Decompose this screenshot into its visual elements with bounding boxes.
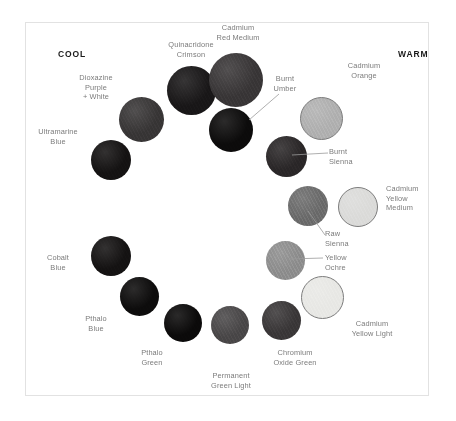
- warm-pole-label: WARM: [398, 49, 429, 59]
- swatch-caption: Ultramarine Blue: [27, 127, 89, 146]
- swatch-caption: Cadmium Orange: [331, 61, 397, 80]
- swatch-sheen: [266, 136, 307, 177]
- swatch-caption: Cadmium Yellow Light: [336, 319, 408, 338]
- swatch-sheen: [211, 306, 249, 344]
- cool-pole-label: COOL: [58, 49, 86, 59]
- diagram-panel: COOL WARM Quinacridone CrimsonCadmium Re…: [25, 22, 429, 396]
- swatch-caption: Quinacridone Crimson: [151, 40, 231, 59]
- swatch-sheen: [164, 304, 202, 342]
- color-wheel-diagram: COOL WARM Quinacridone CrimsonCadmium Re…: [0, 0, 456, 421]
- pigment-swatch: [262, 301, 301, 340]
- swatch-sheen: [301, 98, 342, 139]
- swatch-sheen: [91, 140, 131, 180]
- swatch-caption: Pthalo Green: [129, 348, 175, 367]
- pigment-swatch: [266, 241, 305, 280]
- swatch-caption: Pthalo Blue: [73, 314, 119, 333]
- pigment-swatch: [288, 186, 328, 226]
- pigment-swatch: [120, 277, 159, 316]
- pigment-swatch: [300, 97, 343, 140]
- pigment-swatch: [301, 276, 344, 319]
- swatch-caption: Cadmium Red Medium: [196, 23, 280, 42]
- pigment-swatch: [167, 66, 216, 115]
- swatch-caption: Dioxazine Purple + White: [65, 73, 127, 102]
- swatch-sheen: [91, 236, 131, 276]
- pigment-swatch: [211, 306, 249, 344]
- pigment-swatch: [338, 187, 378, 227]
- pigment-swatch: [266, 136, 307, 177]
- swatch-sheen: [167, 66, 216, 115]
- swatch-sheen: [209, 53, 263, 107]
- pigment-swatch: [209, 108, 253, 152]
- pigment-swatch: [209, 53, 263, 107]
- swatch-sheen: [209, 108, 253, 152]
- pigment-swatch: [91, 236, 131, 276]
- pigment-swatch: [91, 140, 131, 180]
- swatch-sheen: [120, 277, 159, 316]
- swatch-sheen: [262, 301, 301, 340]
- pigment-swatch: [119, 97, 164, 142]
- swatch-sheen: [119, 97, 164, 142]
- swatch-caption: Chromium Oxide Green: [257, 348, 333, 367]
- swatch-caption: Raw Sienna: [325, 229, 367, 248]
- swatch-caption: Burnt Sienna: [329, 147, 371, 166]
- swatch-caption: Yellow Ochre: [325, 253, 367, 272]
- swatch-sheen: [302, 277, 343, 318]
- swatch-sheen: [288, 186, 328, 226]
- swatch-caption: Cobalt Blue: [35, 253, 81, 272]
- swatch-caption: Permanent Green Light: [195, 371, 267, 390]
- swatch-sheen: [339, 188, 377, 226]
- swatch-sheen: [266, 241, 305, 280]
- swatch-caption: Cadmium Yellow Medium: [386, 184, 448, 213]
- swatch-caption: Burnt Umber: [263, 74, 307, 93]
- pigment-swatch: [164, 304, 202, 342]
